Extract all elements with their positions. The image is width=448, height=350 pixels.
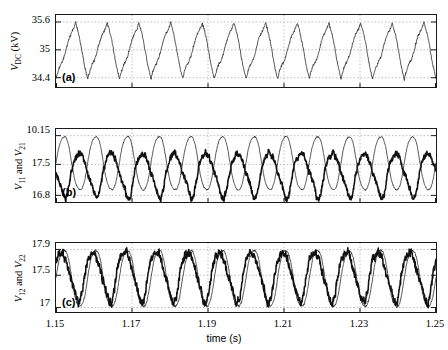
panel-c-y-axis-label: V12 and V22	[14, 230, 27, 326]
panel-a-y-axis-label: VDC (kV)	[10, 13, 23, 89]
figure-root: 35.6 35 34.4 VDC (kV) (a) 10.15 17.5 16.…	[0, 0, 448, 350]
x-axis-label: time (s)	[0, 333, 448, 344]
panel-b-plot-frame	[55, 128, 437, 203]
x-tick-3: 1.21	[263, 319, 303, 330]
panel-b-ylabel-symbol-1: V	[13, 184, 24, 190]
panel-b-ylabel-subscript-1: 11	[18, 177, 27, 184]
panel-a-tag: (a)	[62, 72, 75, 83]
panel-c-ylabel-symbol-2: V	[13, 262, 24, 268]
panel-a-plot-frame	[55, 14, 437, 88]
panel-a-ytick-1: 35	[0, 44, 50, 55]
panel-a-ytick-2: 34.4	[0, 73, 50, 84]
x-tick-0: 1.15	[35, 319, 75, 330]
panel-c-plot-frame	[55, 242, 437, 313]
trace-V_21	[56, 136, 436, 191]
panel-c-ylabel-symbol-1: V	[13, 296, 24, 302]
trace-V_11	[56, 149, 436, 201]
panel-b-y-axis-label: V11 and V21	[14, 118, 27, 214]
panel-b-ylabel-symbol-2: V	[13, 150, 24, 156]
panel-a-ylabel-unit: (kV)	[9, 32, 20, 54]
panel-b-ylabel-conjunction: and	[13, 156, 24, 176]
panel-c-canvas	[56, 243, 436, 312]
panel-b-ylabel-subscript-2: 21	[18, 142, 27, 149]
panel-a-ytick-0: 35.6	[0, 15, 50, 26]
panel-c-ylabel-conjunction: and	[13, 268, 24, 288]
x-tick-1: 1.17	[111, 319, 151, 330]
panel-b-tag: (b)	[62, 187, 76, 198]
x-tick-5: 1.25	[415, 319, 448, 330]
panel-a-ylabel-subscript: DC	[14, 54, 23, 64]
trace-V_DC	[56, 22, 436, 81]
panel-c-tag: (c)	[62, 297, 75, 308]
x-tick-4: 1.23	[339, 319, 379, 330]
x-tick-2: 1.19	[187, 319, 227, 330]
panel-b-canvas	[56, 129, 436, 202]
panel-a-ylabel-symbol: V	[9, 64, 20, 70]
panel-c-ylabel-subscript-2: 22	[18, 254, 27, 261]
panel-c-ylabel-subscript-1: 12	[18, 288, 27, 295]
panel-a-canvas	[56, 15, 436, 87]
